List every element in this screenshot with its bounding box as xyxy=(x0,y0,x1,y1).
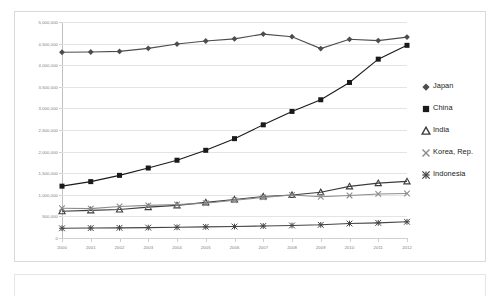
series-indonesia xyxy=(59,219,410,231)
y-tick-label: 1,000,000 xyxy=(38,192,58,197)
asterisk-marker xyxy=(404,219,410,225)
x-tick-label: 2007 xyxy=(258,245,268,250)
cross-icon xyxy=(420,145,432,157)
x-tick-mark xyxy=(120,238,121,242)
legend-item-india[interactable]: India xyxy=(420,118,501,140)
x-tick-label: 2005 xyxy=(201,245,211,250)
plot-wrapper: 0500,0001,000,0001,500,0002,000,0002,500… xyxy=(15,12,487,263)
triangle-icon xyxy=(420,123,432,135)
legend-label: India xyxy=(433,125,449,134)
asterisk-marker xyxy=(117,225,123,231)
asterisk-marker xyxy=(145,225,151,231)
triangle-marker xyxy=(422,127,430,134)
x-tick-label: 2006 xyxy=(230,245,240,250)
asterisk-marker xyxy=(375,220,381,226)
y-tick-label: 4,000,000 xyxy=(38,63,58,68)
diamond-marker xyxy=(260,31,266,37)
x-tick-label: 2011 xyxy=(374,245,383,250)
square-marker xyxy=(88,179,93,184)
x-tick-label: 2002 xyxy=(115,245,125,250)
secondary-frame xyxy=(14,274,486,296)
square-icon xyxy=(420,101,432,113)
x-tick-mark xyxy=(177,238,178,242)
asterisk-marker xyxy=(260,223,266,229)
y-tick-label: 2,500,000 xyxy=(38,128,58,133)
x-tick-label: 2004 xyxy=(172,245,182,250)
legend-label: Indonesia xyxy=(433,169,466,178)
diamond-marker xyxy=(59,49,65,55)
x-tick-mark xyxy=(263,238,264,242)
asterisk-marker xyxy=(203,224,209,230)
legend-label: Japan xyxy=(433,81,453,90)
series-line xyxy=(62,45,407,186)
diamond-marker xyxy=(174,41,180,47)
asterisk-marker xyxy=(422,171,429,178)
asterisk-marker xyxy=(174,224,180,230)
diamond-marker xyxy=(232,36,238,42)
x-tick-mark xyxy=(91,238,92,242)
series-korea-rep xyxy=(59,191,410,212)
x-tick-label: 2001 xyxy=(86,245,96,250)
series-layer xyxy=(62,22,407,238)
y-tick-label: 3,500,000 xyxy=(38,84,58,89)
x-tick-mark xyxy=(350,238,351,242)
legend-label: Korea, Rep. xyxy=(433,147,473,156)
diamond-marker xyxy=(203,38,209,44)
x-tick-label: 2009 xyxy=(316,245,326,250)
y-tick-label: 500,000 xyxy=(42,214,58,219)
diamond-marker xyxy=(422,83,429,90)
legend-item-japan[interactable]: Japan xyxy=(420,74,501,96)
y-tick-label: 0 xyxy=(56,236,58,241)
y-tick-label: 3,000,000 xyxy=(38,106,58,111)
chart-frame: 0500,0001,000,0001,500,0002,000,0002,500… xyxy=(14,11,486,262)
square-marker xyxy=(347,80,352,85)
square-marker xyxy=(318,97,323,102)
x-tick-mark xyxy=(292,238,293,242)
asterisk-marker xyxy=(318,222,324,228)
diamond-marker xyxy=(375,38,381,44)
asterisk-marker xyxy=(289,223,295,229)
diamond-icon xyxy=(420,79,432,91)
plot-area: 0500,0001,000,0001,500,0002,000,0002,500… xyxy=(62,22,407,238)
square-marker xyxy=(405,43,410,48)
x-tick-label: 2008 xyxy=(287,245,297,250)
x-tick-mark xyxy=(62,238,63,242)
legend-item-korea-rep[interactable]: Korea, Rep. xyxy=(420,140,501,162)
asterisk-marker xyxy=(59,225,65,231)
asterisk-marker xyxy=(88,225,94,231)
series-japan xyxy=(59,31,410,55)
square-marker xyxy=(203,148,208,153)
square-marker xyxy=(423,106,429,112)
square-marker xyxy=(175,158,180,163)
x-tick-mark xyxy=(206,238,207,242)
square-marker xyxy=(261,122,266,127)
y-tick-label: 4,500,000 xyxy=(38,41,58,46)
x-tick-label: 2003 xyxy=(143,245,153,250)
square-marker xyxy=(117,173,122,178)
x-tick-mark xyxy=(235,238,236,242)
diamond-marker xyxy=(347,36,353,42)
diamond-marker xyxy=(145,45,151,51)
x-tick-mark xyxy=(407,238,408,242)
asterisk-marker xyxy=(232,224,238,230)
square-marker xyxy=(146,166,151,171)
x-tick-mark xyxy=(321,238,322,242)
y-tick-label: 5,000,000 xyxy=(38,20,58,25)
legend-label: China xyxy=(433,103,453,112)
y-tick-label: 2,000,000 xyxy=(38,149,58,154)
x-tick-mark xyxy=(378,238,379,242)
diamond-marker xyxy=(318,46,324,52)
x-tick-label: 2012 xyxy=(402,245,412,250)
square-marker xyxy=(60,184,65,189)
cross-marker xyxy=(423,150,430,157)
triangle-marker xyxy=(404,178,410,184)
diamond-marker xyxy=(289,34,295,40)
x-tick-mark xyxy=(148,238,149,242)
chart-legend: JapanChinaIndiaKorea, Rep.Indonesia xyxy=(420,74,501,184)
legend-item-indonesia[interactable]: Indonesia xyxy=(420,162,501,184)
square-marker xyxy=(232,136,237,141)
square-marker xyxy=(290,109,295,114)
legend-item-china[interactable]: China xyxy=(420,96,501,118)
series-china xyxy=(60,43,410,189)
diamond-marker xyxy=(117,48,123,54)
